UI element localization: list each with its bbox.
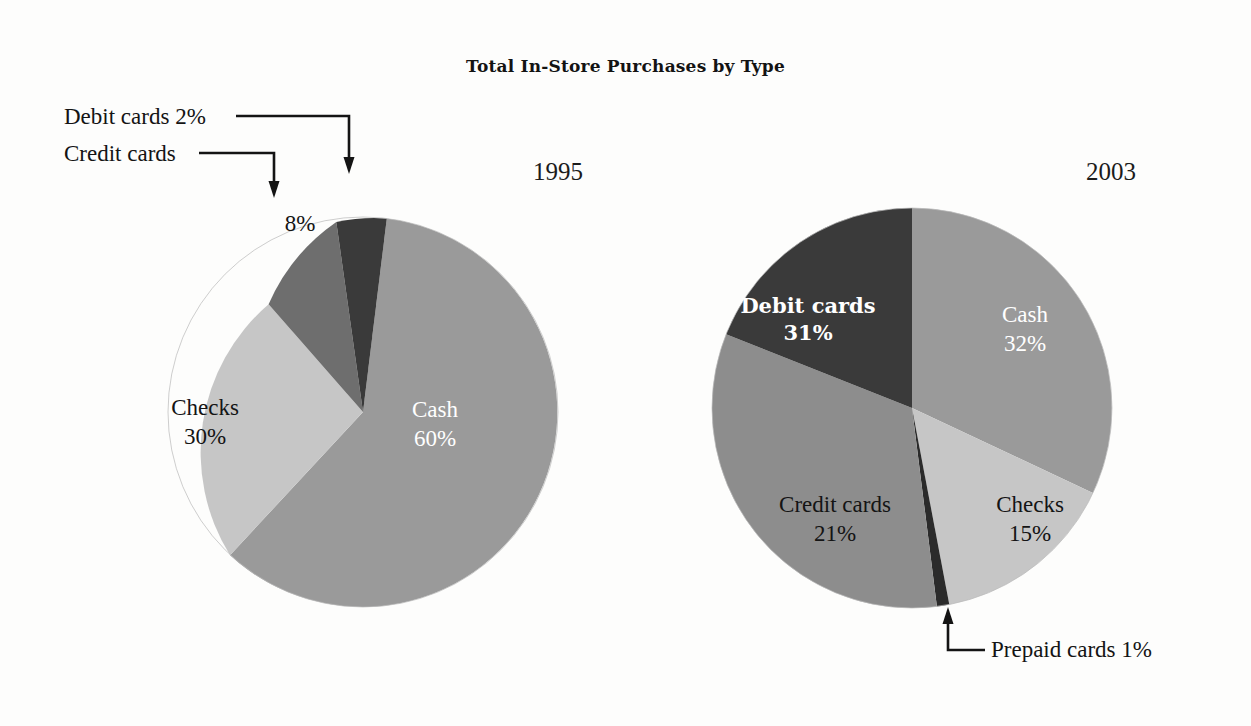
slice-label-1995-checks: Checks 30% [145, 393, 265, 452]
callout-line-prepaid-2003 [948, 624, 985, 650]
slice-label-1995-checks-value: 30% [145, 422, 265, 451]
year-label-2003: 2003 [1086, 158, 1136, 186]
slice-label-2003-checks-value: 15% [975, 519, 1085, 548]
slice-label-1995-cash-value: 60% [375, 424, 495, 453]
slice-label-2003-checks-name: Checks [975, 490, 1085, 519]
slice-label-2003-cash: Cash 32% [975, 300, 1075, 359]
slice-label-2003-cash-value: 32% [975, 329, 1075, 358]
slice-label-2003-debit: Debit cards 31% [718, 293, 898, 347]
callout-label-1995-credit-cards: Credit cards [64, 141, 176, 167]
slice-label-2003-credit-value: 21% [750, 519, 920, 548]
callout-label-2003-prepaid-cards: Prepaid cards 1% [991, 637, 1152, 663]
slice-label-2003-debit-value: 31% [718, 320, 898, 347]
callout-arrow-credit-1995 [269, 181, 280, 198]
chart-canvas: Total In-Store Purchases by Type [0, 0, 1251, 726]
callout-arrow-debit-1995 [344, 157, 355, 174]
slice-label-1995-credit-value: 8% [270, 209, 330, 238]
slice-label-2003-debit-name: Debit cards [718, 293, 898, 320]
slice-label-2003-cash-name: Cash [975, 300, 1075, 329]
slice-label-1995-cash: Cash 60% [375, 395, 495, 454]
slice-label-2003-credit: Credit cards 21% [750, 490, 920, 549]
callout-line-credit-1995 [199, 153, 274, 182]
callout-label-1995-debit-cards: Debit cards 2% [64, 104, 206, 130]
slice-label-2003-credit-name: Credit cards [750, 490, 920, 519]
slice-label-2003-checks: Checks 15% [975, 490, 1085, 549]
callout-arrow-prepaid-2003 [943, 607, 954, 624]
year-label-1995: 1995 [533, 158, 583, 186]
slice-label-1995-cash-name: Cash [375, 395, 495, 424]
slice-label-1995-checks-name: Checks [145, 393, 265, 422]
